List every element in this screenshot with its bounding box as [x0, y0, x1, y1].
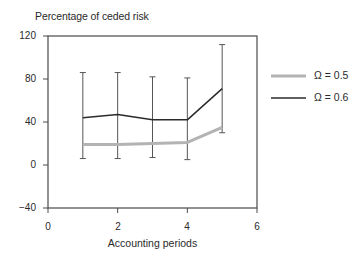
axes-frame: [43, 36, 257, 213]
plot-area: [0, 0, 361, 268]
legend-swatches: [271, 76, 306, 98]
legend-label-omega-06: Ω = 0.6: [314, 91, 348, 103]
legend-label-omega-05: Ω = 0.5: [314, 69, 348, 81]
